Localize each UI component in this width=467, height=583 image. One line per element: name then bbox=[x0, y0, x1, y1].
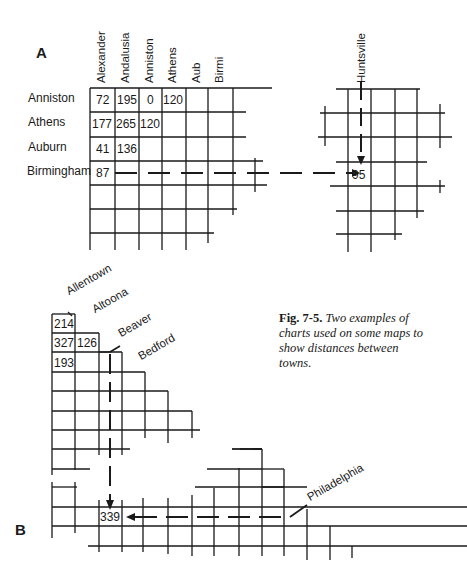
cell-anniston-anniston: 0 bbox=[147, 93, 154, 107]
column-header-andalusia: Andalusia bbox=[119, 32, 131, 83]
cell-193: 193 bbox=[54, 356, 74, 370]
column-header-huntsville: Huntsville bbox=[355, 33, 367, 83]
cell-auburn-andalusia: 136 bbox=[117, 142, 137, 156]
cell-birmingham-huntsville: 95 bbox=[352, 168, 365, 182]
panel-b-label: B bbox=[15, 521, 26, 538]
column-header-birmi: Birmi bbox=[213, 57, 225, 83]
figure-caption: Fig. 7-5. Two examples of charts used on… bbox=[279, 311, 429, 371]
cell-auburn-alexander: 41 bbox=[96, 142, 109, 156]
panel-a-grid bbox=[90, 88, 452, 252]
cell-327: 327 bbox=[54, 336, 74, 350]
row-header-auburn: Auburn bbox=[28, 140, 67, 154]
cell-126: 126 bbox=[77, 336, 97, 350]
cell-athens-andalusia: 265 bbox=[116, 117, 136, 131]
cell-athens-anniston: 120 bbox=[140, 117, 160, 131]
column-header-alexander: Alexander bbox=[95, 31, 107, 83]
cell-214: 214 bbox=[54, 317, 74, 331]
caption-prefix: Fig. 7-5. bbox=[279, 311, 322, 325]
cell-anniston-alexander: 72 bbox=[96, 93, 109, 107]
column-header-aub: Aub bbox=[190, 63, 202, 83]
column-header-athens: Athens bbox=[166, 47, 178, 83]
row-header-anniston: Anniston bbox=[28, 91, 75, 105]
cell-athens-alexander: 177 bbox=[92, 117, 112, 131]
panel-a-label: A bbox=[36, 44, 47, 61]
cell-anniston-athens: 120 bbox=[163, 93, 183, 107]
column-header-anniston: Anniston bbox=[143, 38, 155, 83]
cell-birmingham-alexander: 87 bbox=[96, 166, 109, 180]
row-header-athens: Athens bbox=[28, 115, 65, 129]
row-header-birmingham: Birmingham bbox=[27, 164, 91, 178]
cell-339: 339 bbox=[100, 510, 120, 524]
cell-anniston-andalusia: 195 bbox=[117, 93, 137, 107]
